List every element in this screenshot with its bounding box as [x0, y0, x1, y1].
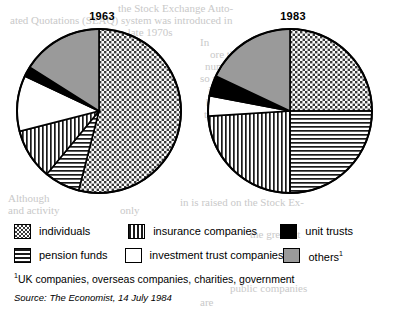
pie-chart-1983-svg — [205, 26, 375, 196]
pie-chart-1983 — [205, 26, 375, 200]
legend-item-pension-funds: pension funds — [14, 248, 125, 263]
pie-slice-insurance-companies — [208, 111, 290, 193]
legend-item-insurance-companies: insurance companies — [128, 224, 280, 239]
legend-label-insurance-companies: insurance companies — [153, 225, 257, 238]
legend-swatch-investment-trust-companies — [125, 248, 142, 263]
source-line: Source: The Economist, 14 July 1984 — [14, 292, 172, 303]
legend-swatch-insurance-companies — [128, 224, 145, 239]
legend-swatch-individuals — [14, 224, 31, 239]
bleed-text: the Stock Exchange Auto- — [118, 2, 233, 14]
pie-slice-individuals — [290, 29, 372, 111]
chart-title-1963: 1963 — [72, 10, 132, 22]
legend-label-individuals: individuals — [39, 225, 90, 238]
pie-slice-pension-funds — [290, 111, 372, 193]
footnote: 1UK companies, overseas companies, chari… — [14, 272, 295, 285]
footnote-text: UK companies, overseas companies, charit… — [18, 273, 295, 285]
bleed-text: only — [120, 204, 140, 216]
pie-chart-1963-svg — [14, 26, 184, 196]
chart-title-1983: 1983 — [263, 10, 323, 22]
legend-row: individuals insurance companies unit tru… — [14, 219, 380, 243]
legend-item-investment-trust-companies: investment trust companies — [125, 248, 284, 263]
pie-chart-1963 — [14, 26, 184, 200]
legend-row: pension funds investment trust companies… — [14, 243, 380, 267]
legend-item-individuals: individuals — [14, 224, 128, 239]
legend-item-unit-trusts: unit trusts — [280, 224, 380, 239]
legend: individuals insurance companies unit tru… — [14, 219, 380, 267]
legend-swatch-others — [283, 248, 300, 263]
legend-label-others: others1 — [308, 247, 342, 264]
bleed-text: and activity — [8, 204, 60, 216]
bleed-text: are — [200, 296, 213, 308]
legend-label-pension-funds: pension funds — [39, 249, 108, 262]
legend-swatch-pension-funds — [14, 248, 31, 263]
legend-label-unit-trusts: unit trusts — [305, 225, 353, 238]
legend-label-investment-trust-companies: investment trust companies — [150, 249, 284, 262]
legend-swatch-unit-trusts — [280, 224, 297, 239]
legend-item-others: others1 — [283, 247, 380, 264]
